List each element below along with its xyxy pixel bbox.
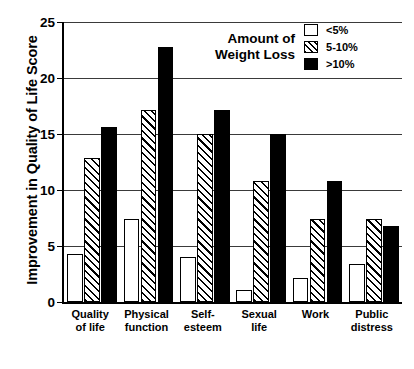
bar [349,264,365,302]
legend-title: Amount of Weight Loss [215,31,295,63]
bar-group [120,22,176,302]
bar [158,47,174,302]
bar [101,127,117,302]
bar [214,110,230,302]
y-tick-label: 10 [40,183,55,198]
x-axis-label: Public distress [344,308,400,334]
legend-label: >10% [326,58,354,70]
y-tick-label: 15 [40,127,55,142]
bar [366,219,382,302]
bar [141,110,157,302]
y-tick-label: 0 [47,295,55,310]
bar [124,219,140,302]
x-axis-label: Physical function [118,308,174,334]
bar [293,278,309,302]
bar [84,158,100,302]
x-axis-label: Quality of life [62,308,118,334]
y-tick-label: 5 [47,239,55,254]
legend-entries: <5%5-10%>10% [304,24,358,70]
y-tick-mark [57,190,64,191]
legend-item: >10% [304,58,358,70]
bar-group [64,22,120,302]
legend-swatch-icon [304,58,318,70]
x-axis-label: Sexual life [231,308,287,334]
y-axis-title: Improvement in Quality of Life Score [24,10,40,310]
y-tick-mark [57,134,64,135]
legend: Amount of Weight Loss <5%5-10%>10% [215,24,358,70]
bar [270,134,286,302]
x-axis-label: Work [287,308,343,321]
legend-label: <5% [326,24,348,36]
x-axis-labels: Quality of lifePhysical functionSelf- es… [62,308,400,354]
bar [310,219,326,302]
bar [327,181,343,302]
legend-label: 5-10% [326,41,358,53]
bar [180,257,196,302]
legend-swatch-icon [304,41,318,53]
x-axis-label: Self- esteem [175,308,231,334]
y-tick-label: 25 [40,15,55,30]
y-tick-mark [57,302,64,303]
legend-item: 5-10% [304,41,358,53]
bar [253,181,269,302]
bar-chart: Improvement in Quality of Life Score 051… [0,0,414,369]
bar [236,290,252,302]
y-tick-mark [57,22,64,23]
y-tick-mark [57,246,64,247]
bar [197,134,213,302]
legend-swatch-icon [304,24,318,36]
legend-item: <5% [304,24,358,36]
bar [67,254,83,302]
y-tick-mark [57,78,64,79]
bar [383,226,399,302]
y-tick-label: 20 [40,71,55,86]
